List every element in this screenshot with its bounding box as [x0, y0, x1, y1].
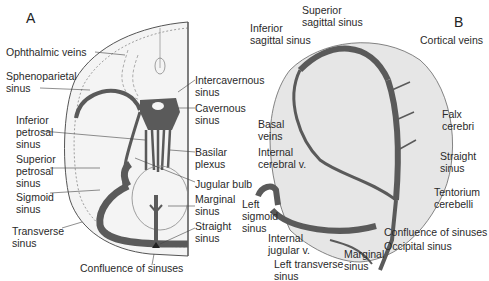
- label-straight-sinus-b: Straight sinus: [440, 150, 476, 174]
- label-inferior-sagittal-sinus: Inferior sagittal sinus: [250, 22, 311, 46]
- label-falx-cerebri: Falx cerebri: [442, 108, 474, 132]
- label-marginal-sinus-a: Marginal sinus: [195, 193, 235, 217]
- label-left-sigmoid-sinus: Left sigmoid sinus: [242, 198, 278, 234]
- panel-a-letter: A: [26, 10, 35, 26]
- label-inferior-petrosal-sinus: Inferior petrosal sinus: [16, 114, 53, 150]
- label-sigmoid-sinus: Sigmoid sinus: [16, 191, 54, 215]
- label-tentorium-cerebelli: Tentorium cerebelli: [434, 186, 480, 210]
- label-intercavernous-sinus: Intercavernous sinus: [195, 74, 264, 98]
- panel-b-letter: B: [454, 14, 463, 30]
- label-cortical-veins: Cortical veins: [420, 34, 483, 46]
- label-jugular-bulb: Jugular bulb: [195, 178, 252, 190]
- label-superior-sagittal-sinus: Superior sagittal sinus: [302, 4, 363, 28]
- label-marginal-sinus-b: Marginal sinus: [344, 248, 384, 272]
- label-internal-cerebral-v: Internal cerebral v.: [258, 146, 306, 170]
- label-basal-veins: Basal veins: [258, 118, 284, 142]
- label-ophthalmic-veins: Ophthalmic veins: [6, 46, 87, 58]
- label-confluence-of-sinuses-b: Confluence of sinuses: [384, 226, 487, 238]
- label-superior-petrosal-sinus: Superior petrosal sinus: [16, 153, 56, 189]
- label-straight-sinus-a: Straight sinus: [195, 220, 231, 244]
- label-occipital-sinus: Occipital sinus: [384, 240, 452, 252]
- label-internal-jugular-v: Internal jugular v.: [268, 232, 310, 256]
- label-basilar-plexus: Basilar plexus: [195, 146, 227, 170]
- dural-sinus-diagram: [0, 0, 489, 281]
- label-sphenoparietal-sinus: Sphenoparietal sinus: [6, 70, 77, 94]
- label-confluence-of-sinuses-a: Confluence of sinuses: [80, 262, 183, 274]
- label-transverse-sinus: Transverse sinus: [12, 225, 64, 249]
- label-cavernous-sinus: Cavernous sinus: [195, 102, 246, 126]
- label-left-transverse-sinus: Left transverse sinus: [274, 258, 343, 281]
